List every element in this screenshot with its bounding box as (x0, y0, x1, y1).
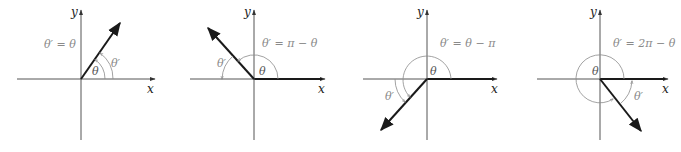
x-axis-label: x (662, 82, 669, 96)
formula-label: θ′ = θ − π (440, 37, 496, 50)
x-axis-label: x (318, 82, 325, 96)
panel-quadrant-4: x y θ θ′ θ′ = 2π − θ (537, 5, 676, 140)
reference-angle-label: θ′ (217, 57, 227, 70)
terminal-ray (208, 28, 254, 79)
reference-angle-label: θ′ (634, 90, 644, 103)
reference-angle-label: θ′ (111, 57, 121, 70)
terminal-ray (600, 79, 641, 131)
panel-quadrant-1: x y θ θ′ θ′ = θ (17, 5, 155, 140)
y-axis-label: y (416, 5, 424, 19)
panel-quadrant-3: x y θ θ′ θ′ = θ − π (363, 5, 498, 140)
x-axis-label: x (147, 82, 154, 96)
theta-label: θ (430, 65, 437, 78)
x-axis-label: x (491, 82, 498, 96)
terminal-ray (81, 23, 120, 79)
reference-angle-label: θ′ (385, 90, 395, 103)
reference-angle-arc (395, 79, 405, 102)
formula-label: θ′ = 2π − θ (613, 37, 676, 50)
y-axis-label: y (70, 5, 78, 19)
reference-angle-diagrams: x y θ θ′ θ′ = θ x y θ θ′ θ′ = π − θ x y (0, 0, 681, 152)
reference-angle-arc (620, 81, 632, 104)
theta-label: θ (592, 65, 599, 78)
theta-label: θ (92, 65, 99, 78)
formula-label: θ′ = π − θ (262, 37, 318, 50)
panel-quadrant-2: x y θ θ′ θ′ = π − θ (190, 5, 325, 140)
y-axis-label: y (243, 5, 251, 19)
y-axis-label: y (589, 5, 597, 19)
theta-label: θ (259, 65, 266, 78)
formula-label: θ′ = θ (44, 38, 76, 51)
